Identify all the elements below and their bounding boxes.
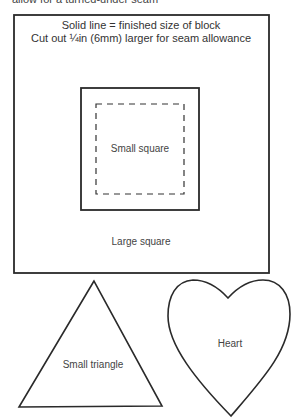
heart-label: Heart — [218, 338, 242, 349]
small-triangle-label: Small triangle — [63, 359, 124, 370]
small-square-label: Small square — [111, 143, 169, 154]
small-triangle-outline — [19, 281, 162, 407]
large-square-note-line2: Cut out ¼in (6mm) larger for seam allowa… — [31, 32, 251, 45]
large-square-label: Large square — [112, 236, 171, 247]
large-square-note-line1: Solid line = finished size of block — [62, 19, 221, 32]
template-diagram — [0, 0, 300, 418]
